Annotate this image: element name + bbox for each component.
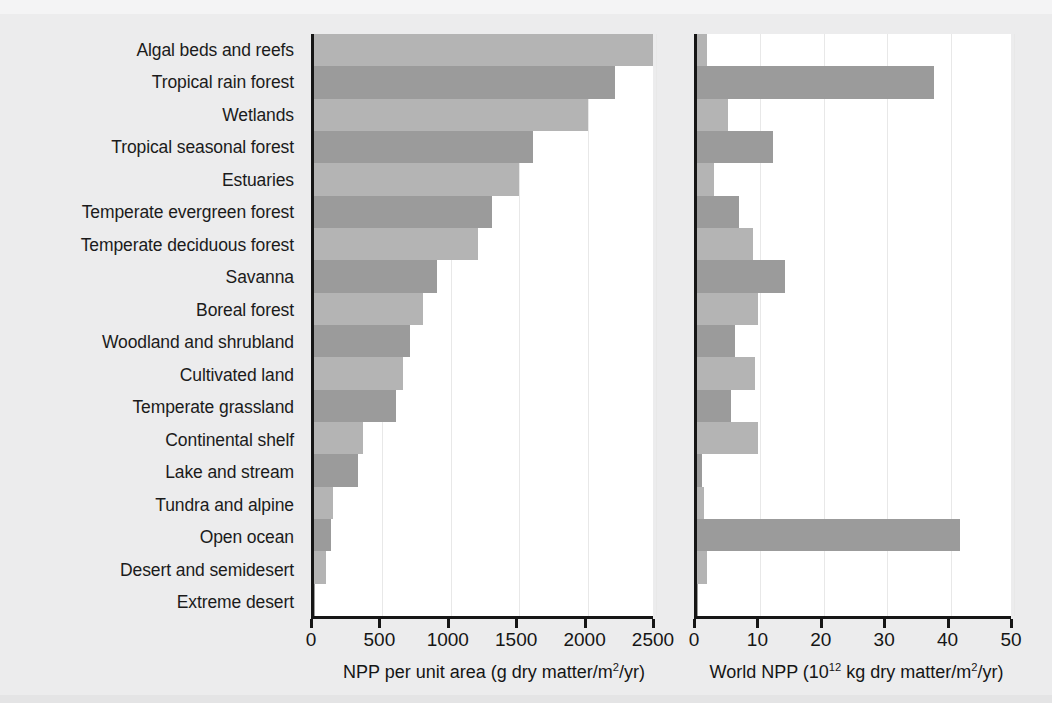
axis-tick-label: 40 — [937, 629, 958, 651]
bar — [314, 357, 403, 389]
bar-row — [697, 163, 1011, 195]
bar — [697, 422, 758, 454]
bar-row — [314, 196, 653, 228]
bar-row — [697, 131, 1011, 163]
bar — [697, 357, 755, 389]
bar — [314, 163, 519, 195]
bar — [697, 66, 934, 98]
category-label: Tropical rain forest — [0, 67, 303, 100]
bar — [314, 293, 423, 325]
bar-row — [697, 293, 1011, 325]
category-label: Boreal forest — [0, 294, 303, 327]
axis-tick — [820, 619, 823, 628]
bar — [697, 454, 702, 486]
bar — [697, 260, 785, 292]
category-label: Desert and semidesert — [0, 554, 303, 587]
axis-tick — [947, 619, 950, 628]
axis-tick-label: 2000 — [563, 629, 605, 651]
bar — [697, 34, 707, 66]
bars-right — [697, 34, 1011, 616]
x-axis-npp-per-unit-area: NPP per unit area (g dry matter/m2/yr) 0… — [311, 619, 653, 683]
bars-left — [314, 34, 653, 616]
axis-tick — [693, 619, 696, 628]
axis-tick — [378, 619, 381, 628]
bar-row — [314, 34, 653, 66]
plot-panel-world-npp — [694, 34, 1011, 619]
axis-tick-label: 10 — [747, 629, 768, 651]
axis-tick-label: 30 — [874, 629, 895, 651]
figure-bottom-band — [0, 695, 1052, 703]
gridline — [1014, 34, 1015, 616]
axis-tick-label: 1000 — [427, 629, 469, 651]
bar — [314, 196, 492, 228]
bar-row — [314, 519, 653, 551]
axis-tick-label: 20 — [810, 629, 831, 651]
bar-row — [314, 584, 653, 616]
bar-row — [697, 66, 1011, 98]
bar-row — [697, 325, 1011, 357]
figure-top-band — [0, 0, 1052, 14]
bar — [314, 551, 326, 583]
bar-row — [697, 228, 1011, 260]
bar — [314, 519, 331, 551]
bar-row — [314, 163, 653, 195]
bar-row — [314, 487, 653, 519]
bar — [697, 519, 960, 551]
bar — [697, 293, 758, 325]
bar-row — [697, 357, 1011, 389]
bar — [314, 325, 410, 357]
bar-row — [314, 260, 653, 292]
category-label: Estuaries — [0, 164, 303, 197]
bar-row — [314, 454, 653, 486]
x-axis-title-world-npp: World NPP (1012 kg dry matter/m2/yr) — [698, 661, 1015, 683]
axis-tick — [310, 619, 313, 628]
bar — [314, 454, 358, 486]
category-label: Open ocean — [0, 522, 303, 555]
axis-tick-label: 0 — [306, 629, 317, 651]
bar-row — [697, 551, 1011, 583]
bar — [314, 131, 533, 163]
category-label: Temperate evergreen forest — [0, 197, 303, 230]
bar-row — [314, 325, 653, 357]
category-label-column: Algal beds and reefsTropical rain forest… — [0, 34, 303, 619]
bar — [314, 390, 396, 422]
bar-row — [697, 519, 1011, 551]
axis-tick — [756, 619, 759, 628]
bar-row — [314, 131, 653, 163]
bar — [697, 196, 739, 228]
bar-row — [697, 584, 1011, 616]
category-label: Cultivated land — [0, 359, 303, 392]
bar-row — [697, 99, 1011, 131]
category-label: Continental shelf — [0, 424, 303, 457]
category-label: Tundra and alpine — [0, 489, 303, 522]
plot-panel-npp-per-unit-area — [311, 34, 653, 619]
bar-row — [314, 293, 653, 325]
category-label: Tropical seasonal forest — [0, 132, 303, 165]
axis-tick — [515, 619, 518, 628]
category-label: Savanna — [0, 262, 303, 295]
axis-tick — [447, 619, 450, 628]
category-label: Temperate grassland — [0, 392, 303, 425]
bar — [697, 551, 707, 583]
bar — [314, 487, 333, 519]
gridline — [656, 34, 657, 616]
bar-row — [697, 260, 1011, 292]
axis-tick — [1010, 619, 1013, 628]
bar — [697, 163, 714, 195]
bar-row — [697, 34, 1011, 66]
bar-row — [314, 357, 653, 389]
axis-tick-label: 500 — [364, 629, 396, 651]
axis-tick-label: 2500 — [632, 629, 674, 651]
axis-tick — [883, 619, 886, 628]
bar — [697, 99, 728, 131]
bar-row — [697, 390, 1011, 422]
bar — [697, 325, 735, 357]
x-axis-world-npp: World NPP (1012 kg dry matter/m2/yr) 010… — [694, 619, 1011, 683]
bar-row — [314, 422, 653, 454]
bar-row — [697, 422, 1011, 454]
category-label: Temperate deciduous forest — [0, 229, 303, 262]
bar — [314, 228, 478, 260]
category-label: Extreme desert — [0, 587, 303, 620]
bar — [697, 390, 731, 422]
bar — [314, 66, 615, 98]
